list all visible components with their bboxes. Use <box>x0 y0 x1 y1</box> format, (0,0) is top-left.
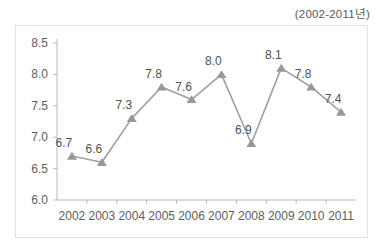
x-tick-label: 2004 <box>118 209 145 223</box>
data-value-label: 8.0 <box>205 54 222 68</box>
data-value-labels: 6.76.67.37.87.68.06.98.17.87.4 <box>56 48 342 156</box>
data-point-marker <box>216 70 226 78</box>
x-tick-label: 2008 <box>238 209 265 223</box>
x-axis-tick-labels: 2002200320042005200620072008200920102011 <box>59 209 355 223</box>
x-tick-label: 2009 <box>268 209 295 223</box>
data-value-label: 6.7 <box>56 136 73 150</box>
x-axis-tick-marks <box>87 200 326 204</box>
y-tick-label: 6.5 <box>31 162 48 176</box>
data-point-marker <box>67 152 77 160</box>
y-tick-label: 6.0 <box>31 193 48 207</box>
y-tick-label: 8.5 <box>31 36 48 50</box>
y-tick-label: 8.0 <box>31 67 48 81</box>
data-value-label: 7.8 <box>145 67 162 81</box>
data-value-label: 6.6 <box>86 142 103 156</box>
data-point-marker <box>157 83 167 91</box>
y-tick-label: 7.0 <box>31 130 48 144</box>
y-tick-label: 7.5 <box>31 99 48 113</box>
x-tick-label: 2006 <box>178 209 205 223</box>
data-value-label: 7.3 <box>115 98 132 112</box>
chart-container: (2002-2011년) 8.58.07.57.06.56.0 20022003… <box>0 0 386 249</box>
data-value-label: 7.4 <box>325 92 342 106</box>
data-value-label: 7.6 <box>175 80 192 94</box>
data-point-marker <box>246 139 256 147</box>
x-tick-label: 2005 <box>148 209 175 223</box>
x-tick-label: 2010 <box>298 209 325 223</box>
x-tick-label: 2011 <box>328 209 354 223</box>
y-axis-tick-marks <box>53 43 57 200</box>
x-tick-label: 2003 <box>88 209 115 223</box>
period-annotation: (2002-2011년) <box>295 5 370 21</box>
x-tick-label: 2007 <box>208 209 235 223</box>
data-series-line <box>72 68 341 162</box>
data-value-label: 6.9 <box>235 123 252 137</box>
x-tick-label: 2002 <box>59 209 86 223</box>
data-value-label: 8.1 <box>265 48 282 62</box>
y-axis-tick-labels: 8.58.07.57.06.56.0 <box>31 36 48 207</box>
line-chart-plot: 8.58.07.57.06.56.0 200220032004200520062… <box>15 25 368 238</box>
data-point-marker <box>276 64 286 72</box>
data-value-label: 7.8 <box>295 67 312 81</box>
